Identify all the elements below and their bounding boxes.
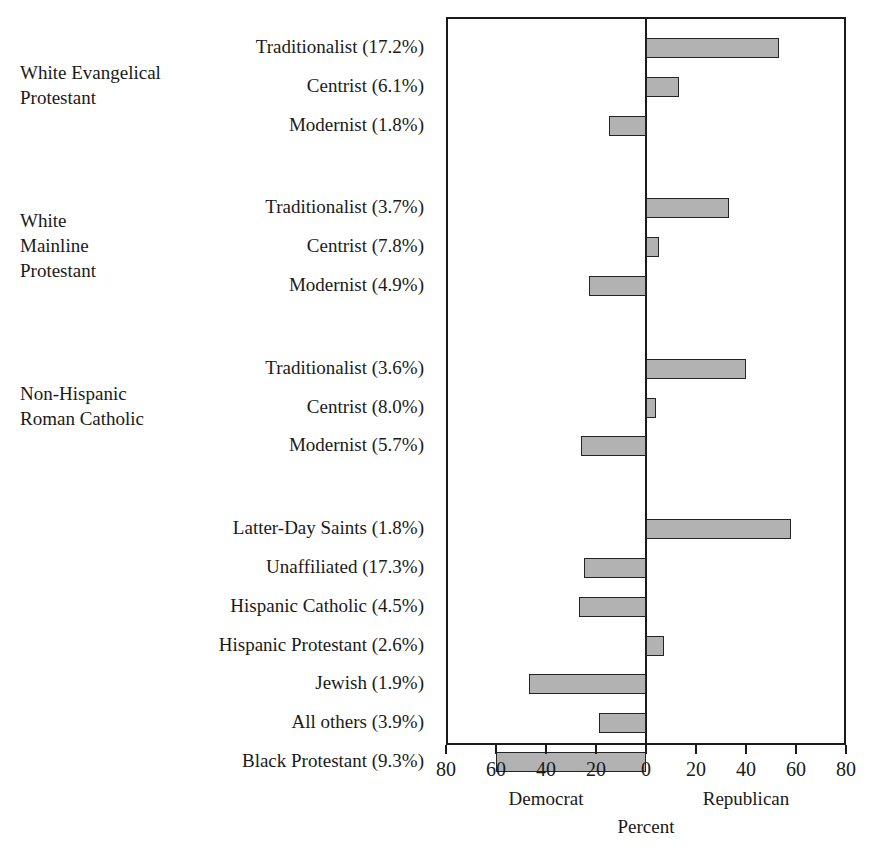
bar	[646, 636, 664, 656]
axis-tick-label: 20	[571, 759, 621, 779]
axis-tick-label: 60	[471, 759, 521, 779]
bar	[579, 597, 647, 617]
bar	[584, 558, 647, 578]
bar	[581, 436, 646, 456]
axis-tick	[545, 745, 547, 754]
axis-tick	[745, 745, 747, 754]
axis-tick-label: 60	[771, 759, 821, 779]
bar-row-label: Modernist (5.7%)	[0, 435, 424, 455]
axis-tick	[795, 745, 797, 754]
republican-direction-label: Republican	[676, 789, 816, 809]
bar	[599, 713, 647, 733]
axis-tick	[495, 745, 497, 754]
axis-tick-label: 80	[821, 759, 871, 779]
group-label: White Mainline Protestant	[20, 208, 96, 283]
bar-row-label: Traditionalist (3.6%)	[0, 358, 424, 378]
bar-row-label: Jewish (1.9%)	[0, 673, 424, 693]
axis-tick-label: 0	[621, 759, 671, 779]
bar	[646, 38, 779, 58]
axis-tick	[845, 745, 847, 754]
x-axis-title: Percent	[566, 817, 726, 837]
axis-tick-label: 40	[721, 759, 771, 779]
partisanship-by-religious-tradition-chart: Traditionalist (17.2%)Centrist (6.1%)Mod…	[0, 0, 872, 852]
bar	[609, 116, 647, 136]
bar	[646, 359, 746, 379]
axis-tick	[595, 745, 597, 754]
axis-tick-label: 40	[521, 759, 571, 779]
bar-row-label: Latter-Day Saints (1.8%)	[0, 518, 424, 538]
axis-tick	[645, 745, 647, 754]
axis-tick	[445, 745, 447, 754]
bar	[646, 519, 791, 539]
bar	[646, 77, 679, 97]
bar	[646, 237, 659, 257]
bar-row-label: Traditionalist (17.2%)	[0, 37, 424, 57]
democrat-direction-label: Democrat	[476, 789, 616, 809]
bar	[529, 674, 647, 694]
bar	[646, 198, 729, 218]
bar-row-label: Hispanic Catholic (4.5%)	[0, 596, 424, 616]
bar-row-label: Unaffiliated (17.3%)	[0, 557, 424, 577]
axis-tick-label: 80	[421, 759, 471, 779]
bar	[589, 276, 647, 296]
axis-tick	[695, 745, 697, 754]
group-label: White Evangelical Protestant	[20, 60, 161, 110]
bar	[646, 398, 656, 418]
bar-row-label: All others (3.9%)	[0, 712, 424, 732]
bar-row-label: Hispanic Protestant (2.6%)	[0, 635, 424, 655]
group-label: Non-Hispanic Roman Catholic	[20, 381, 144, 431]
bar-row-label: Modernist (1.8%)	[0, 115, 424, 135]
bar-row-label: Black Protestant (9.3%)	[0, 751, 424, 771]
axis-tick-label: 20	[671, 759, 721, 779]
